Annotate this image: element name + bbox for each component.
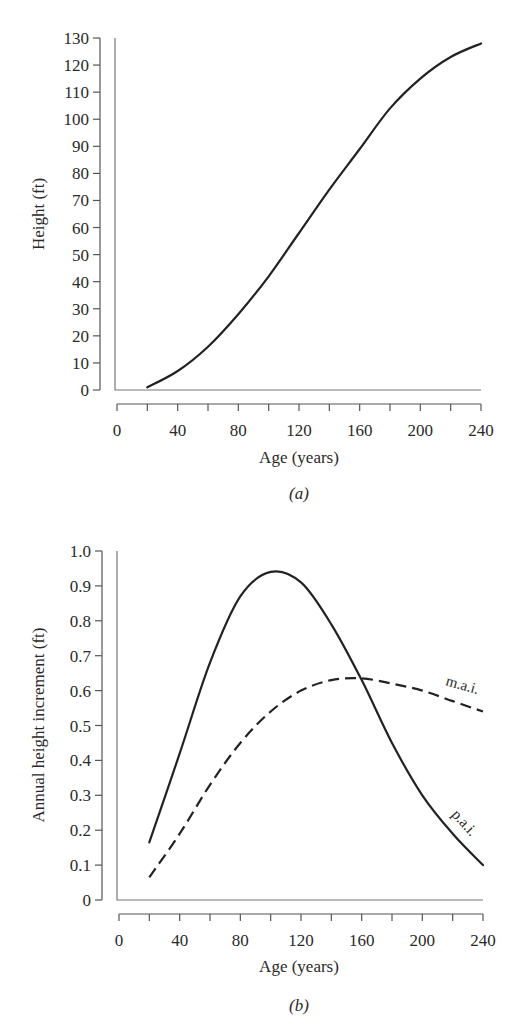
x-tick-label: 80 — [232, 931, 249, 950]
x-tick-label: 0 — [115, 931, 124, 950]
y-tick-label: 100 — [64, 110, 90, 129]
chart-a-frame — [115, 38, 481, 390]
y-tick-label: 1.0 — [70, 542, 91, 561]
y-tick-label: 80 — [72, 164, 89, 183]
chart-b: 00.10.20.30.40.50.60.70.80.91.0 04080120… — [29, 542, 496, 1015]
chart-a-y-label: Height (ft) — [29, 178, 48, 250]
y-tick-label: 90 — [72, 137, 89, 156]
chart-a-caption: (a) — [289, 484, 309, 503]
y-tick-label: 0.1 — [70, 856, 91, 875]
y-tick-label: 0 — [81, 381, 90, 400]
y-tick-label: 0 — [83, 891, 92, 910]
y-tick-label: 0.8 — [70, 612, 91, 631]
chart-b-y-axis: 00.10.20.30.40.50.60.70.80.91.0 — [70, 542, 102, 910]
y-tick-label: 0.9 — [70, 577, 91, 596]
x-tick-label: 0 — [113, 421, 122, 440]
y-tick-label: 30 — [72, 300, 89, 319]
y-tick-label: 40 — [72, 273, 89, 292]
chart-a-y-axis: 0102030405060708090100110120130 — [64, 29, 101, 400]
chart-b-caption: (b) — [289, 996, 309, 1015]
y-tick-label: 0.6 — [70, 682, 91, 701]
y-tick-label: 110 — [64, 83, 89, 102]
x-tick-label: 40 — [171, 931, 188, 950]
y-tick-label: 0.3 — [70, 786, 91, 805]
y-tick-label: 70 — [72, 191, 89, 210]
y-tick-label: 0.2 — [70, 821, 91, 840]
chart-b-mai-curve — [149, 678, 483, 877]
chart-b-mai-label: m.a.i. — [444, 673, 481, 698]
chart-b-y-label: Annual height increment (ft) — [29, 628, 48, 823]
x-tick-label: 200 — [410, 931, 436, 950]
y-tick-label: 10 — [72, 354, 89, 373]
y-tick-label: 0.5 — [70, 717, 91, 736]
y-tick-label: 0.7 — [70, 647, 92, 666]
x-tick-label: 160 — [347, 421, 373, 440]
chart-a-x-axis: 04080120160200240 — [113, 404, 494, 440]
x-tick-label: 240 — [470, 931, 496, 950]
y-tick-label: 120 — [64, 56, 90, 75]
x-tick-label: 240 — [468, 421, 494, 440]
x-tick-label: 200 — [408, 421, 434, 440]
chart-b-pai-curve — [149, 571, 483, 865]
chart-a-height-curve — [147, 43, 481, 387]
figure: 0102030405060708090100110120130 04080120… — [0, 0, 521, 1031]
y-tick-label: 130 — [64, 29, 90, 48]
chart-a-x-label: Age (years) — [259, 448, 339, 467]
x-tick-label: 120 — [288, 931, 314, 950]
chart-b-x-axis: 04080120160200240 — [115, 914, 496, 950]
y-tick-label: 60 — [72, 219, 89, 238]
chart-b-x-label: Age (years) — [259, 957, 339, 976]
chart-a: 0102030405060708090100110120130 04080120… — [29, 29, 494, 503]
x-tick-label: 120 — [286, 421, 312, 440]
x-tick-label: 160 — [349, 931, 375, 950]
x-tick-label: 40 — [169, 421, 186, 440]
chart-b-frame — [117, 551, 483, 900]
y-tick-label: 50 — [72, 246, 89, 265]
x-tick-label: 80 — [230, 421, 247, 440]
y-tick-label: 20 — [72, 327, 89, 346]
y-tick-label: 0.4 — [70, 751, 92, 770]
